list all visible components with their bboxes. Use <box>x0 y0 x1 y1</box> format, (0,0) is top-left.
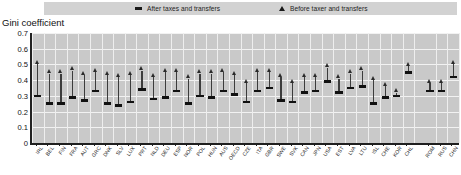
x-axis-tick <box>105 143 106 146</box>
x-axis-tick <box>360 143 361 146</box>
gridline-vertical <box>44 33 45 143</box>
dash-marker-icon <box>46 102 53 105</box>
triangle-marker-icon <box>139 66 143 70</box>
connector-line <box>165 72 166 97</box>
x-axis-tick-label: NLD <box>148 145 159 157</box>
dash-marker-icon <box>92 90 99 93</box>
x-axis-tick <box>82 143 83 146</box>
triangle-marker-icon <box>244 79 248 83</box>
gridline-vertical <box>136 33 137 143</box>
dash-marker-icon <box>69 96 76 99</box>
triangle-marker-icon <box>348 69 352 73</box>
plot-area <box>30 33 459 143</box>
gridline-vertical <box>55 33 56 143</box>
triangle-marker-icon <box>81 71 85 75</box>
dash-marker-icon <box>382 96 389 99</box>
gridline-vertical <box>391 33 392 143</box>
triangle-marker-icon <box>93 68 97 72</box>
x-axis-tick-label: CZE <box>241 145 252 157</box>
dash-marker-icon <box>173 90 180 93</box>
triangle-marker-icon <box>70 66 74 70</box>
x-axis-tick <box>152 143 153 146</box>
y-axis-tick-label: 0.5 <box>0 60 28 69</box>
triangle-marker-icon <box>105 71 109 75</box>
dash-marker-icon <box>104 102 111 105</box>
x-axis-tick-labels: IRLBELFINFRAAUTGRCDNKSLVLUXPRTNLDDEUESPN… <box>30 145 459 175</box>
x-axis-tick-label: CAN <box>299 145 310 158</box>
gridline-vertical <box>113 33 114 143</box>
gridline-vertical <box>333 33 334 143</box>
x-axis-tick-label: HUN <box>206 145 218 158</box>
gridline-vertical <box>171 33 172 143</box>
gridline-horizontal <box>32 49 459 50</box>
x-axis-tick <box>406 143 407 146</box>
x-axis-tick-label: ROM <box>424 145 436 159</box>
x-axis-tick-label: KOR <box>391 145 403 158</box>
x-axis-tick-label: CHN <box>448 145 460 158</box>
dash-marker-icon <box>243 101 250 104</box>
x-axis-tick <box>302 143 303 146</box>
connector-line <box>141 71 142 90</box>
x-axis-tick-label: SWE <box>275 145 287 158</box>
x-axis-tick-label: BEL <box>45 145 56 157</box>
y-axis-tick-label: 0.4 <box>0 76 28 85</box>
x-axis-tick-label: PRT <box>137 145 148 157</box>
y-axis-tick-label: 0.3 <box>0 91 28 100</box>
connector-line <box>153 77 154 99</box>
x-axis-tick <box>175 143 176 146</box>
gridline-vertical <box>241 33 242 143</box>
x-axis-tick-label: EST <box>334 145 345 157</box>
connector-line <box>269 72 270 88</box>
triangle-marker-icon <box>128 71 132 75</box>
dash-marker-icon <box>277 99 284 102</box>
x-axis-tick <box>383 143 384 146</box>
triangle-marker-icon <box>427 79 431 83</box>
x-axis-tick <box>451 143 452 146</box>
x-axis-tick <box>233 143 234 146</box>
triangle-marker-icon <box>359 66 363 70</box>
dash-marker-icon <box>220 90 227 93</box>
dash-marker-icon <box>34 95 41 98</box>
triangle-marker-icon <box>279 6 285 11</box>
x-axis-tick-label: IRL <box>34 145 44 155</box>
dash-marker-icon <box>162 96 169 99</box>
connector-line <box>49 74 50 104</box>
x-axis-tick <box>372 143 373 146</box>
gridline-vertical <box>380 33 381 143</box>
gridline-vertical <box>206 33 207 143</box>
triangle-marker-icon <box>394 88 398 92</box>
connector-line <box>373 80 374 104</box>
dash-marker-icon <box>426 90 433 93</box>
x-axis-tick-label: OECD <box>227 145 241 161</box>
x-axis-tick-label: ESP <box>172 145 183 157</box>
triangle-marker-icon <box>116 73 120 77</box>
x-axis-tick <box>428 143 429 146</box>
dash-marker-icon <box>150 98 157 101</box>
x-axis-tick-label: FIN <box>57 145 67 156</box>
dash-marker-icon <box>301 91 308 94</box>
dash-marker-icon <box>347 87 354 90</box>
connector-line <box>234 75 235 94</box>
legend-item-after-taxes: After taxes and transfers <box>135 5 220 12</box>
dash-marker-icon <box>359 85 366 88</box>
x-axis-tick-label: CHE <box>380 145 391 158</box>
x-axis-tick <box>71 143 72 146</box>
y-axis-tick-label: 0.7 <box>0 29 28 38</box>
gridline-horizontal <box>32 112 459 113</box>
y-axis-tick-label: 0 <box>0 139 28 148</box>
x-axis-tick-label: CHL <box>403 145 414 157</box>
triangle-marker-icon <box>406 62 410 66</box>
dash-marker-icon <box>57 102 64 105</box>
dash-marker-icon <box>208 96 215 99</box>
dash-marker-icon <box>138 88 145 91</box>
gridline-vertical <box>90 33 91 143</box>
x-axis-tick-label: JPN <box>311 145 322 157</box>
gridline-vertical <box>310 33 311 143</box>
x-axis-tick <box>314 143 315 146</box>
chart-legend: After taxes and transfers Before taxer a… <box>44 2 457 15</box>
dash-marker-icon <box>127 101 134 104</box>
gridline-vertical <box>78 33 79 143</box>
triangle-marker-icon <box>325 63 329 67</box>
dash-marker-icon <box>135 7 142 10</box>
gridline-vertical <box>447 33 448 143</box>
